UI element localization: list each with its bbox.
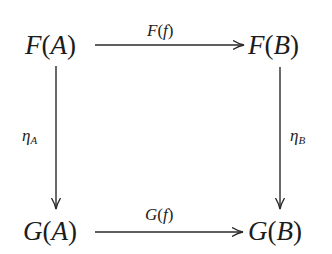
node-g-of-a: G(A) <box>23 218 77 245</box>
label-eta-a: ηA <box>22 127 37 146</box>
node-f-of-b: F(B) <box>248 32 299 59</box>
label-g-of-f: G(f) <box>145 206 173 223</box>
node-f-of-a: F(A) <box>25 32 76 59</box>
commutative-diagram: F(A) F(B) G(A) G(B) F(f) G(f) ηA ηB <box>0 0 332 254</box>
node-g-of-b: G(B) <box>248 218 302 245</box>
label-eta-b: ηB <box>290 127 305 146</box>
label-f-of-f: F(f) <box>147 22 173 39</box>
